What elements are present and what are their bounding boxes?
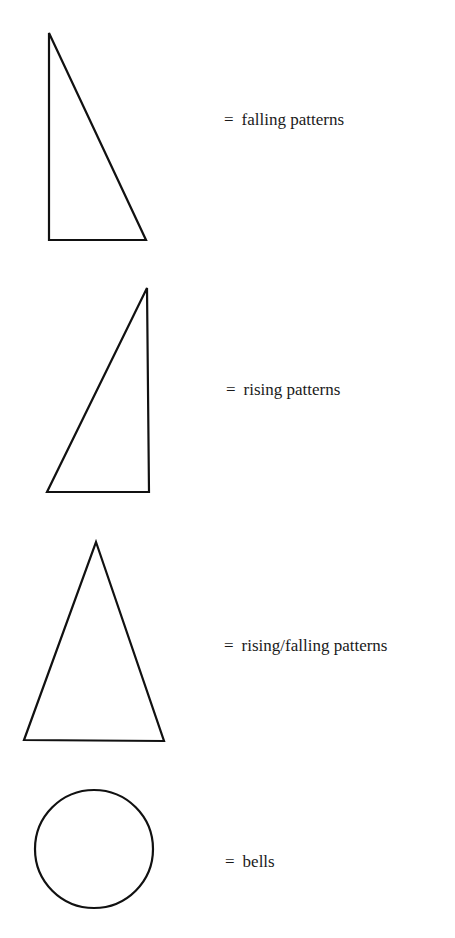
legend-item-bells: =bells	[225, 853, 275, 870]
legend-item-falling: =falling patterns	[224, 111, 344, 128]
legend-label: falling patterns	[242, 110, 344, 129]
falling-pattern-triangle-icon	[49, 33, 146, 240]
legend-item-rising: =rising patterns	[226, 381, 340, 398]
legend-label: rising patterns	[244, 380, 341, 399]
legend-label: rising/falling patterns	[242, 636, 388, 655]
rising-falling-pattern-triangle-icon	[24, 542, 164, 741]
equals-sign: =	[224, 111, 234, 128]
legend-label: bells	[243, 852, 275, 871]
equals-sign: =	[225, 853, 235, 870]
equals-sign: =	[226, 381, 236, 398]
legend-symbols	[0, 0, 455, 938]
legend-item-rising-falling: =rising/falling patterns	[224, 637, 387, 654]
equals-sign: =	[224, 637, 234, 654]
rising-pattern-triangle-icon	[47, 288, 149, 492]
bells-circle-icon	[35, 790, 153, 908]
